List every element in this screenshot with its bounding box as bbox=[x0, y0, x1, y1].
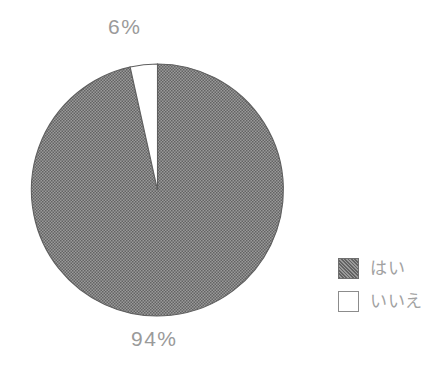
legend-label-hai: はい bbox=[370, 260, 405, 277]
chart-legend: はい いいえ bbox=[338, 252, 443, 318]
legend-label-iie: いいえ bbox=[370, 293, 423, 310]
slice-value-label-large: 94% bbox=[131, 328, 178, 349]
legend-swatch-empty-icon bbox=[338, 291, 359, 312]
slice-value-label-small: 6% bbox=[108, 16, 141, 37]
legend-item-iie: いいえ bbox=[338, 285, 443, 318]
legend-swatch-filled-icon bbox=[338, 258, 359, 279]
pie-plot-area bbox=[0, 0, 310, 365]
pie-chart-figure: 6% 94% はい いいえ bbox=[0, 0, 447, 365]
legend-item-hai: はい bbox=[338, 252, 443, 285]
pie-chart-svg bbox=[0, 0, 310, 365]
